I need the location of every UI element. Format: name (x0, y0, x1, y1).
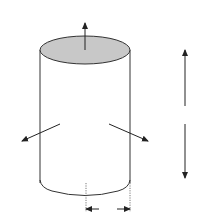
cylinder-diagram (0, 0, 200, 222)
cylinder-bottom-arc (40, 180, 130, 196)
x-axis-arrow (22, 124, 60, 141)
y-axis-arrow (109, 124, 148, 141)
